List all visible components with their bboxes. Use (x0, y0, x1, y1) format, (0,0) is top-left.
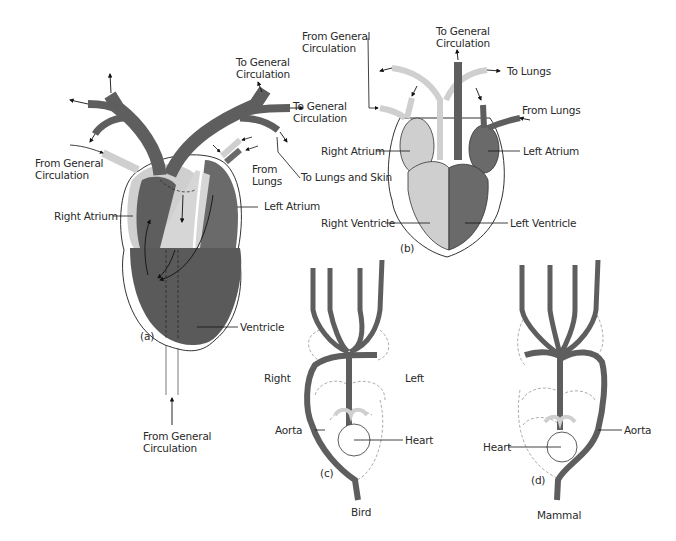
label-b-right-atrium: Right Atrium (321, 145, 385, 157)
diagram-artwork (0, 0, 676, 541)
panel-a-tag: (a) (140, 330, 154, 342)
label-a-left-atrium: Left Atrium (264, 200, 320, 212)
label-a-right-atrium: Right Atrium (54, 210, 118, 222)
label-a-from-general-circulation-bottom: From General Circulation (143, 430, 211, 454)
label-a-to-lungs-and-skin: To Lungs and Skin (301, 171, 392, 183)
label-d-aorta: Aorta (624, 424, 651, 436)
label-b-to-lungs: To Lungs (507, 65, 551, 77)
label-b-from-general-circulation: From General Circulation (302, 30, 370, 54)
label-b-left-ventricle: Left Ventricle (510, 217, 576, 229)
label-c-aorta: Aorta (275, 424, 302, 436)
label-c-left: Left (405, 372, 424, 384)
circulation-figure: To General Circulation To General Circul… (0, 0, 676, 541)
label-c-heart: Heart (405, 434, 433, 446)
label-b-from-lungs: From Lungs (522, 104, 580, 116)
caption-mammal: Mammal (537, 509, 581, 521)
caption-bird: Bird (351, 506, 371, 518)
label-d-heart: Heart (483, 441, 511, 453)
panel-c-tag: (c) (320, 467, 333, 479)
label-a-to-general-circulation-right: To General Circulation (293, 100, 347, 124)
label-a-to-general-circulation-top: To General Circulation (236, 56, 290, 80)
label-a-from-general-circulation: From General Circulation (35, 157, 103, 181)
label-b-to-general-circulation: To General Circulation (436, 25, 490, 49)
panel-c-bird (307, 260, 403, 500)
panel-d-mammal (508, 260, 622, 500)
label-a-from-lungs: From Lungs (252, 163, 282, 187)
panel-b-tag: (b) (400, 242, 414, 254)
panel-d-tag: (d) (531, 474, 545, 486)
label-b-right-ventricle: Right Ventricle (321, 217, 395, 229)
label-a-ventricle: Ventricle (240, 321, 284, 333)
label-c-right: Right (264, 372, 291, 384)
label-b-left-atrium: Left Atrium (523, 145, 579, 157)
